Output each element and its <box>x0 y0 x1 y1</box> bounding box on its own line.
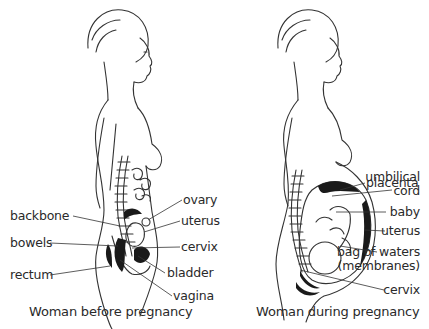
label-rectum: rectum <box>10 268 53 282</box>
anatomy-diagram: ovary backbone uterus bowels cervix rect… <box>0 0 429 329</box>
label-cervix-pregnant: cervix <box>383 283 420 297</box>
label-bowels: bowels <box>10 236 52 250</box>
label-bag-of-waters-2: (membranes) <box>338 259 420 273</box>
label-bag-of-waters-1: bag of waters <box>337 245 420 259</box>
label-baby: baby <box>390 205 420 219</box>
label-uterus-pregnant: uterus <box>381 224 420 238</box>
label-uterus: uterus <box>181 214 220 228</box>
label-umbilical-cord-2: cord <box>393 184 420 198</box>
label-cervix: cervix <box>181 240 218 254</box>
label-ovary: ovary <box>183 193 217 207</box>
label-bladder: bladder <box>167 266 213 280</box>
figure-before-illustration <box>0 0 429 329</box>
label-umbilical-cord-1: umbilical <box>365 170 420 184</box>
label-backbone: backbone <box>10 209 69 223</box>
caption-during: Woman during pregnancy <box>256 304 420 319</box>
label-vagina: vagina <box>173 289 214 303</box>
caption-before: Woman before pregnancy <box>29 304 192 319</box>
